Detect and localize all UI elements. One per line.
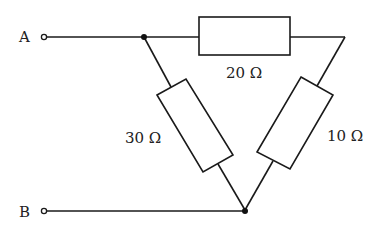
wire-left-upper	[144, 37, 171, 87]
resistor-20-ohm	[199, 17, 290, 55]
resistor-20-label: 20 Ω	[226, 64, 262, 82]
junction-node-bottom	[242, 208, 248, 214]
wire-right-lower	[245, 161, 273, 210]
resistor-10-ohm	[257, 77, 333, 169]
resistor-30-label: 30 Ω	[125, 129, 161, 147]
circuit-diagram: A B 20 Ω 30 Ω 10 Ω	[0, 0, 378, 242]
terminal-a-label: A	[18, 28, 30, 46]
terminal-b-label: B	[19, 203, 30, 221]
junction-node-top	[141, 34, 147, 40]
wire-right-upper	[317, 37, 345, 86]
resistor-30-ohm	[157, 79, 233, 172]
terminal-a[interactable]	[41, 34, 46, 39]
wire-left-lower	[218, 164, 245, 210]
resistor-10-label: 10 Ω	[327, 127, 363, 145]
terminal-b[interactable]	[41, 208, 46, 213]
